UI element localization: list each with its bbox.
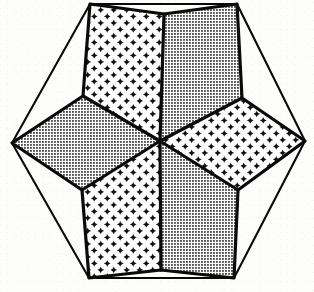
figure-canvas	[0, 0, 314, 292]
hexagram-spoke-inner-bottom	[160, 141, 161, 270]
hexagram-figure	[0, 0, 314, 292]
